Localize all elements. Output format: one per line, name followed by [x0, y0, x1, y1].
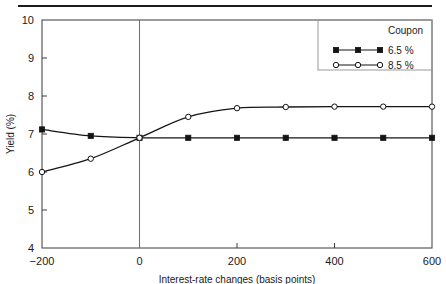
data-point-marker [355, 62, 360, 67]
chart-legend: Coupon6.5 %8.5 % [318, 20, 432, 71]
header-rule [18, 5, 432, 7]
legend-entry-label: 6.5 % [388, 45, 414, 56]
axis-ticks [42, 58, 335, 248]
y-tick-label: 9 [28, 52, 34, 64]
y-tick-label: 10 [22, 14, 34, 26]
plot-frame [42, 20, 432, 248]
x-axis-tick-labels: −2000200400600 [30, 255, 442, 267]
y-axis-title: Yield (%) [5, 114, 16, 154]
data-point-marker [355, 47, 360, 52]
data-point-marker [186, 114, 191, 119]
data-point-marker [333, 62, 338, 67]
data-point-marker [88, 156, 93, 161]
yield-vs-interest-rate-chart: 45678910 −2000200400600 Yield (%) Intere… [0, 0, 446, 284]
data-point-marker [283, 104, 288, 109]
data-point-marker [39, 169, 44, 174]
x-tick-label: −200 [30, 255, 55, 267]
y-tick-label: 5 [28, 204, 34, 216]
data-series-group [39, 104, 434, 175]
data-point-marker [381, 104, 386, 109]
x-tick-label: 600 [423, 255, 441, 267]
data-point-marker [186, 135, 191, 140]
y-tick-label: 6 [28, 166, 34, 178]
data-point-marker [429, 135, 434, 140]
data-point-marker [429, 104, 434, 109]
data-series [39, 127, 434, 141]
x-tick-label: 0 [136, 255, 142, 267]
data-point-marker [332, 104, 337, 109]
chart-figure: 45678910 −2000200400600 Yield (%) Intere… [0, 0, 446, 284]
x-axis-title: Interest-rate changes (basis points) [159, 274, 316, 284]
y-tick-label: 8 [28, 90, 34, 102]
data-point-marker [332, 135, 337, 140]
data-point-marker [234, 135, 239, 140]
data-point-marker [39, 127, 44, 132]
data-point-marker [137, 135, 142, 140]
y-tick-label: 4 [28, 242, 34, 254]
data-point-marker [381, 135, 386, 140]
data-point-marker [377, 47, 382, 52]
y-axis-tick-labels: 45678910 [22, 14, 34, 254]
data-point-marker [88, 133, 93, 138]
x-tick-label: 200 [228, 255, 246, 267]
y-tick-label: 7 [28, 128, 34, 140]
data-point-marker [234, 105, 239, 110]
legend-title: Coupon [388, 25, 423, 36]
data-point-marker [333, 47, 338, 52]
legend-entry-label: 8.5 % [388, 60, 414, 71]
data-point-marker [377, 62, 382, 67]
data-point-marker [283, 135, 288, 140]
x-tick-label: 400 [325, 255, 343, 267]
